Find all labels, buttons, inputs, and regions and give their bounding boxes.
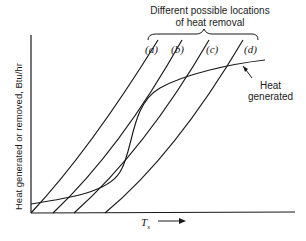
label-c: (c) (206, 43, 218, 55)
x-arrow-icon (179, 218, 186, 224)
label-a: (a) (145, 43, 158, 55)
title-line-2: of heat removal (150, 17, 270, 29)
brace (148, 29, 258, 40)
heat-balance-diagram: Different possible locations of heat rem… (0, 0, 306, 241)
label-d: (d) (244, 43, 257, 55)
y-axis-label: Heat generated or removed, Btu/hr (13, 63, 24, 210)
title-line-1: Different possible locations (150, 5, 270, 17)
heat-removal-line-a (31, 40, 158, 213)
heat-removal-line-b (53, 40, 182, 213)
x-axis (31, 212, 295, 213)
heat-generated-line-2: generated (248, 91, 293, 102)
heat-generated-label: Heat generated (248, 80, 293, 102)
heat-generated-line-1: Heat (248, 80, 293, 91)
x-axis-label: Ts (141, 216, 150, 231)
x-axis-label-sub: s (147, 223, 150, 231)
label-b: (b) (171, 43, 184, 55)
heat-removal-line-d (105, 40, 243, 213)
diagram-canvas (0, 0, 306, 241)
